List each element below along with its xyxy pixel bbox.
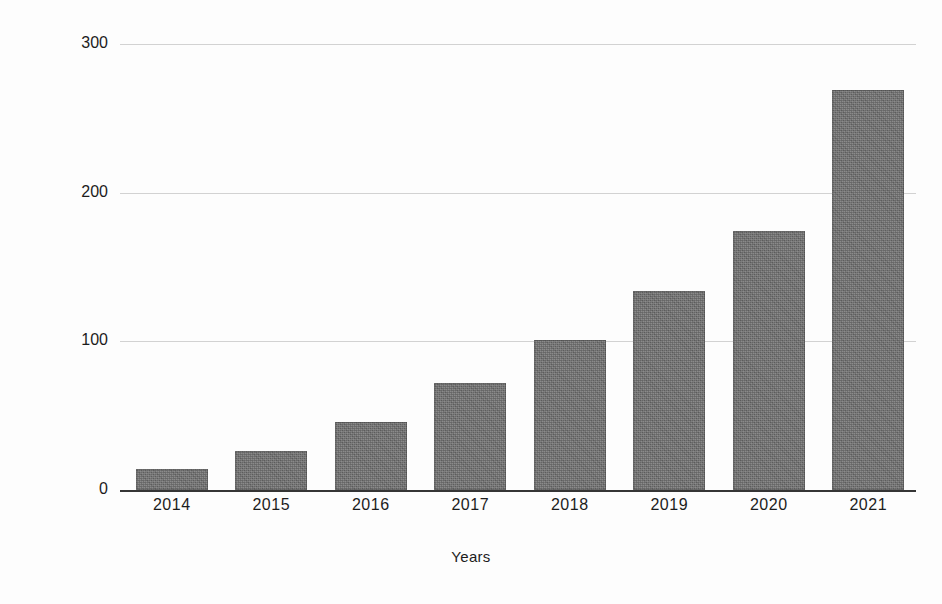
bar [633,291,705,490]
bar [832,90,904,490]
x-axis-title: Years [0,548,942,565]
bar [434,383,506,490]
bar-series [120,44,916,490]
bar-chart: # Of Repositories (1000s) 0100200300 201… [0,0,942,604]
bar [733,231,805,490]
y-tick-label: 0 [28,481,108,497]
bar [136,469,208,490]
x-tick-label: 2020 [721,496,817,514]
plot-area: 0100200300 20142015201620172018201920202… [120,44,916,491]
y-tick-label: 300 [28,35,108,51]
x-tick-label: 2015 [223,496,319,514]
axis-baseline [120,490,916,492]
x-tick-label: 2014 [124,496,220,514]
x-tick-label: 2016 [323,496,419,514]
y-tick-label: 100 [28,332,108,348]
x-tick-label: 2017 [422,496,518,514]
x-tick-label: 2021 [820,496,916,514]
x-tick-label: 2018 [522,496,618,514]
x-tick-label: 2019 [621,496,717,514]
bar [235,451,307,490]
bar [335,422,407,490]
bar [534,340,606,490]
y-tick-label: 200 [28,184,108,200]
